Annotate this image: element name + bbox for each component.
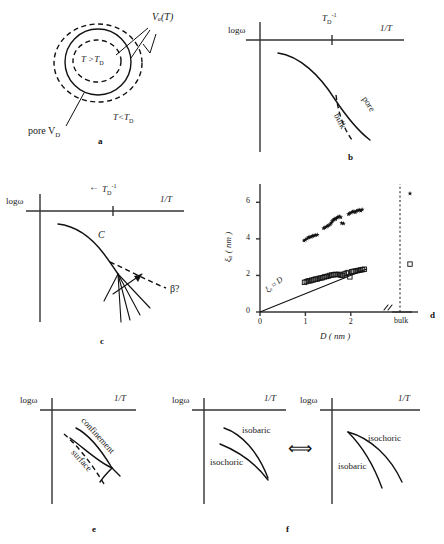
leader-pore xyxy=(66,93,84,126)
panel-d-reference-line xyxy=(260,269,367,312)
panel-c-td-arrow-icon: ← xyxy=(89,182,99,192)
series-bulk-points xyxy=(408,191,413,266)
panel-letter-c: c xyxy=(100,336,104,346)
label-inner-region-sub: D xyxy=(99,60,103,66)
panel-b-x-axis-label: 1/T xyxy=(380,24,392,33)
panel-d-ytick-2: 2 xyxy=(246,270,250,278)
panel-c-td-tick-label: TD-1 xyxy=(102,183,117,196)
label-cooperative-volume: Vₐ(T) xyxy=(152,12,173,22)
panel-d-axis-break xyxy=(384,184,418,312)
panel-c-master-curve xyxy=(58,224,118,274)
panel-f-right-isobaric-label: isobaric xyxy=(338,462,367,471)
panel-f-left-isobaric-label: isobaric xyxy=(242,426,271,435)
panel-c-beta-label: β? xyxy=(170,284,180,294)
panel-d: 0246012 ξₐ ( nm ) D ( nm ) bulk ξₐ ≈ D d xyxy=(222,170,444,355)
panel-f-right-y-axis-label: logω xyxy=(300,396,317,405)
panel-d-chart xyxy=(222,170,444,355)
panel-a-graphic xyxy=(0,0,222,170)
panel-e-y-axis-label: logω xyxy=(20,396,37,405)
panel-d-axes xyxy=(260,184,412,312)
panel-d-ytick-6: 6 xyxy=(246,197,250,205)
panel-f-left-isochoric-label: isochoric xyxy=(210,458,243,467)
panel-a: Vₐ(T) T >TD T<TD pore VD a xyxy=(0,0,222,170)
panel-b-td-sub: D xyxy=(327,19,331,25)
panel-d-xtick-2: 2 xyxy=(349,318,353,326)
panel-c-td-sup: -1 xyxy=(111,183,116,189)
panel-letter-f: f xyxy=(286,524,289,534)
panel-f-left-y-axis-label: logω xyxy=(172,396,189,405)
panel-e: logω 1/T confinement surface e xyxy=(0,372,150,544)
panel-c-fan-5 xyxy=(104,274,118,301)
panel-b-y-axis-label: logω xyxy=(228,26,245,35)
panel-d-xtick-1: 1 xyxy=(303,318,307,326)
panel-c-x-axis-label: 1/T xyxy=(160,195,172,204)
panel-f-left: logω 1/T isobaric isochoric xyxy=(150,372,296,544)
leader-va-inner xyxy=(116,28,148,55)
panel-c-td-sub: D xyxy=(107,190,111,196)
panel-b: logω 1/T TD-1 pore bulk b xyxy=(222,0,444,170)
panel-f-left-isobaric-curve xyxy=(224,428,268,478)
panel-d-ytick-4: 4 xyxy=(246,234,250,242)
panel-e-confinement-tail xyxy=(112,468,120,476)
panel-c-crossover-label: C xyxy=(98,230,105,240)
panel-f-right-x-axis-label: 1/T xyxy=(398,394,410,403)
panel-d-xtick-0: 0 xyxy=(258,318,262,326)
label-outer-region: T<TD xyxy=(113,113,134,124)
series-upper-branch xyxy=(302,207,365,242)
panel-c-y-axis-label: logω xyxy=(6,197,23,206)
panel-letter-b: b xyxy=(348,152,353,162)
label-pore-volume-sub: D xyxy=(55,131,60,138)
label-outer-region-sub: D xyxy=(129,118,133,124)
panel-d-data-points xyxy=(302,191,413,285)
panel-f-left-x-axis-label: 1/T xyxy=(264,394,276,403)
label-inner-region: T >TD xyxy=(81,55,104,66)
label-pore-volume: pore VD xyxy=(28,126,60,139)
panel-e-x-axis-label: 1/T xyxy=(114,394,126,403)
panel-letter-e: e xyxy=(92,524,96,534)
panel-b-pore-curve xyxy=(278,53,370,140)
panel-d-x-axis-label: D ( nm ) xyxy=(320,332,350,341)
panel-c-graphic xyxy=(0,170,222,355)
panel-b-graphic xyxy=(222,0,444,170)
panel-f-right: logω 1/T isochoric isobaric f xyxy=(300,372,444,544)
panel-c-arrow-head xyxy=(134,274,142,282)
panel-c: logω 1/T ← TD-1 C β? c xyxy=(0,170,222,355)
panel-f-right-isochoric-label: isochoric xyxy=(368,434,401,443)
panel-b-td-sup: -1 xyxy=(331,12,336,18)
panel-d-bulk-label: bulk xyxy=(394,317,408,325)
panel-d-y-axis-label: ξₐ ( nm ) xyxy=(224,232,233,262)
panel-d-ytick-0: 0 xyxy=(246,307,250,315)
panel-b-td-tick-label: TD-1 xyxy=(322,12,337,25)
panel-f-right-graphic xyxy=(300,372,444,544)
panel-letter-d: d xyxy=(430,310,435,320)
panel-letter-a: a xyxy=(98,136,103,146)
